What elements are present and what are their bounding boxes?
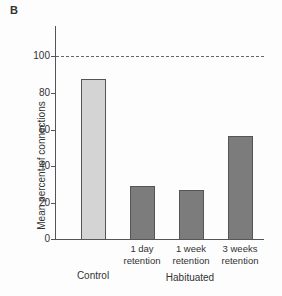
group-label-habituated: Habituated bbox=[150, 272, 230, 283]
y-tick-label: 80 bbox=[26, 87, 50, 98]
bar-3-weeks-retention bbox=[228, 136, 253, 240]
y-tick bbox=[51, 166, 55, 167]
x-label-3-weeks: 3 weeks retention bbox=[210, 243, 270, 267]
panel-label: B bbox=[10, 4, 18, 16]
y-tick-label: 0 bbox=[26, 233, 50, 244]
y-tick-label: 20 bbox=[26, 197, 50, 208]
y-tick bbox=[51, 239, 55, 240]
bar-control bbox=[81, 79, 106, 240]
y-tick-label: 60 bbox=[26, 124, 50, 135]
bar-1-day-retention bbox=[130, 186, 155, 240]
y-tick-label: 40 bbox=[26, 160, 50, 171]
group-label-control: Control bbox=[63, 270, 123, 281]
y-tick bbox=[51, 56, 55, 57]
bar-1-week-retention bbox=[179, 190, 204, 240]
reference-line-100 bbox=[56, 56, 264, 57]
y-tick bbox=[51, 203, 55, 204]
y-tick-label: 100 bbox=[26, 50, 50, 61]
y-axis bbox=[55, 26, 56, 239]
y-tick bbox=[51, 130, 55, 131]
y-tick bbox=[51, 93, 55, 94]
